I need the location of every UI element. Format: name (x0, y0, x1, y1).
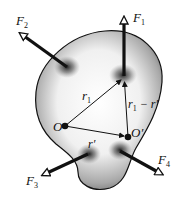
f3-label: F3 (26, 174, 38, 190)
r-prime-label: r′ (88, 138, 95, 150)
r1-label: r1 (82, 89, 91, 105)
r1-minus-r-prime-label: r1 − r′ (128, 98, 158, 113)
f2-label: F2 (16, 14, 28, 30)
point-o (62, 123, 69, 130)
force-diagram: F1 F2 F3 F4 O O′ r1 r′ r1 − r′ (0, 0, 177, 198)
o-label: O (53, 120, 62, 133)
o-prime-label: O′ (131, 126, 143, 139)
f1-label: F1 (133, 11, 145, 27)
f4-label: F4 (158, 153, 170, 169)
